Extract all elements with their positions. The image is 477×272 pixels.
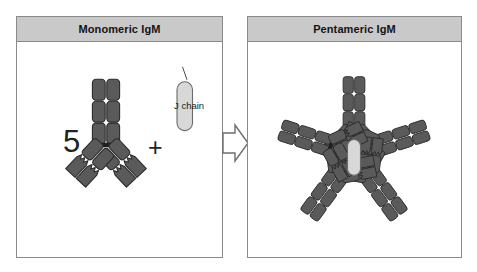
panel-pentameric-igm: Pentameric IgM <box>247 16 462 258</box>
panel-header-left: Monomeric IgM <box>17 17 222 42</box>
panel-title-pentameric: Pentameric IgM <box>313 23 396 35</box>
pentamer-diagram <box>248 42 461 257</box>
j-chain-capsule-icon <box>177 67 193 131</box>
j-chain-label: J chain <box>174 100 204 111</box>
panel-title-monomeric: Monomeric IgM <box>79 23 161 35</box>
plus-operator: + <box>148 135 163 160</box>
panel-body-right <box>248 42 461 257</box>
panel-monomeric-igm: Monomeric IgM <box>16 16 223 258</box>
panel-header-right: Pentameric IgM <box>248 17 461 42</box>
panel-body-left: 5 + J chain <box>17 42 222 257</box>
igm-assembly-figure: Monomeric IgM <box>0 0 477 272</box>
monomer-diagram <box>17 42 222 257</box>
j-chain-capsule-icon <box>348 140 361 176</box>
monomer-count-label: 5 <box>63 126 80 157</box>
